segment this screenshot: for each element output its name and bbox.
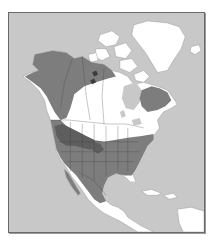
north-america-map xyxy=(9,13,204,232)
range-map xyxy=(8,12,205,233)
